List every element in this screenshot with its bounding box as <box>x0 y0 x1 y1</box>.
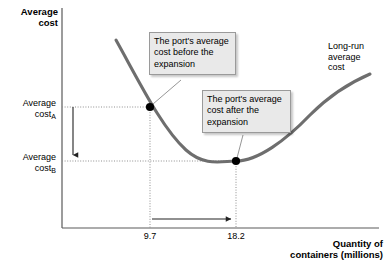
data-point-b <box>232 157 240 165</box>
curve-series-label: Long-run average cost <box>328 41 386 73</box>
x-tick-label-18-2: 18.2 <box>216 231 256 242</box>
callout-after-expansion: The port's average cost after the expans… <box>202 90 291 133</box>
cost-b-subscript: B <box>51 167 56 174</box>
y-axis-title: Average cost <box>6 6 58 28</box>
cost-a-subscript: A <box>51 113 56 120</box>
callout-before-leader-line <box>153 80 181 104</box>
y-tick-label-cost-a: Average costA <box>2 98 56 119</box>
callout-after-leader-line <box>237 135 243 158</box>
data-point-a <box>146 103 154 111</box>
x-tick-label-9-7: 9.7 <box>130 231 170 242</box>
long-run-average-cost-figure: Average cost Quantity of containers (mil… <box>0 0 387 274</box>
callout-before-expansion: The port's average cost before the expan… <box>149 32 236 75</box>
y-tick-label-cost-b: Average costB <box>2 152 56 173</box>
